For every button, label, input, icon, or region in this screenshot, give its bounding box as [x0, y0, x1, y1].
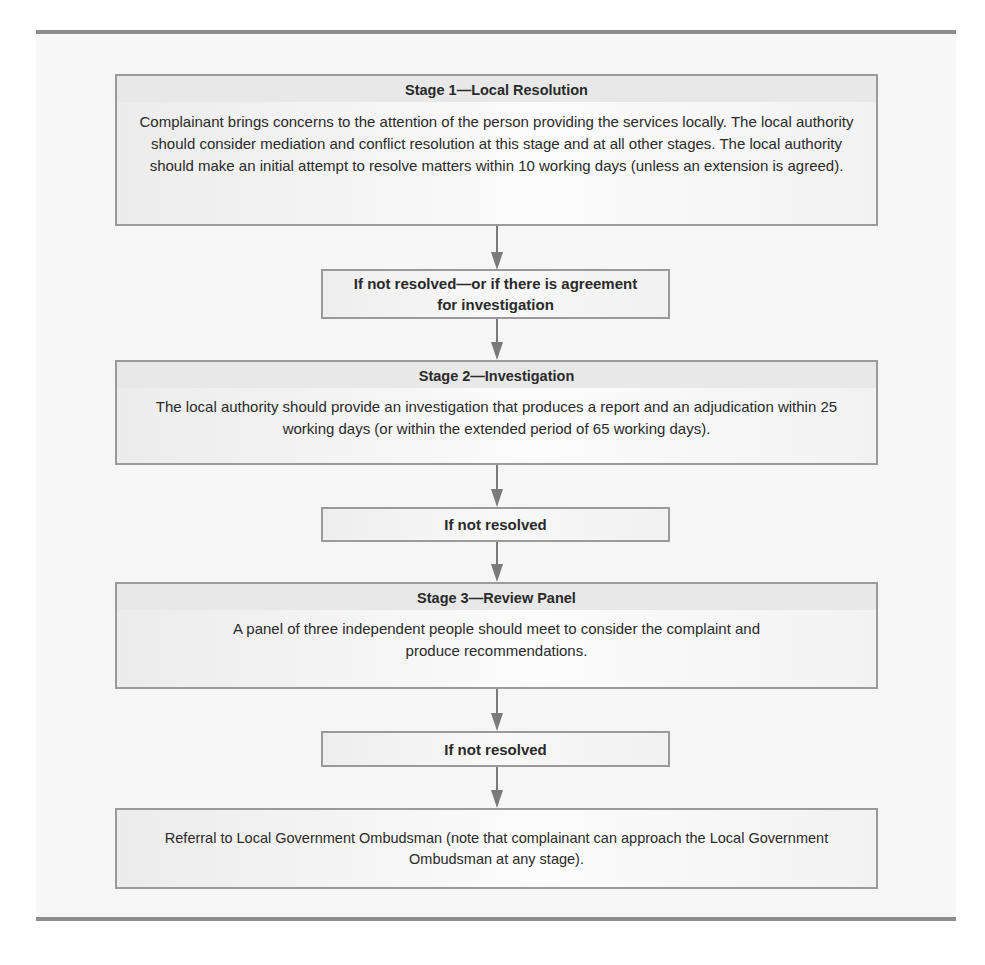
- bottom-rule: [36, 917, 956, 921]
- arrow-down-icon: [491, 689, 503, 731]
- condition-1-box: If not resolved—or if there is agreement…: [321, 269, 670, 319]
- arrow-down-icon: [491, 465, 503, 507]
- top-rule: [36, 30, 956, 34]
- condition-1-label: If not resolved—or if there is agreement…: [353, 273, 638, 315]
- stage-1-box: Stage 1—Local Resolution Complainant bri…: [115, 74, 878, 226]
- stage-3-title: Stage 3—Review Panel: [117, 584, 876, 610]
- stage-2-box: Stage 2—Investigation The local authorit…: [115, 360, 878, 465]
- stage-2-body: The local authority should provide an in…: [117, 388, 876, 446]
- condition-3-box: If not resolved: [321, 731, 670, 767]
- condition-3-label: If not resolved: [444, 739, 547, 760]
- stage-1-title: Stage 1—Local Resolution: [117, 76, 876, 102]
- ombudsman-referral-box: Referral to Local Government Ombudsman (…: [115, 808, 878, 889]
- condition-2-box: If not resolved: [321, 507, 670, 542]
- arrow-down-icon: [491, 319, 503, 360]
- arrow-down-icon: [491, 542, 503, 582]
- arrow-down-icon: [491, 226, 503, 270]
- stage-2-title: Stage 2—Investigation: [117, 362, 876, 388]
- stage-3-body: A panel of three independent people shou…: [117, 610, 876, 668]
- ombudsman-referral-text: Referral to Local Government Ombudsman (…: [157, 828, 836, 870]
- condition-2-label: If not resolved: [444, 514, 547, 535]
- arrow-down-icon: [491, 767, 503, 808]
- stage-1-body: Complainant brings concerns to the atten…: [117, 102, 876, 183]
- stage-3-box: Stage 3—Review Panel A panel of three in…: [115, 582, 878, 689]
